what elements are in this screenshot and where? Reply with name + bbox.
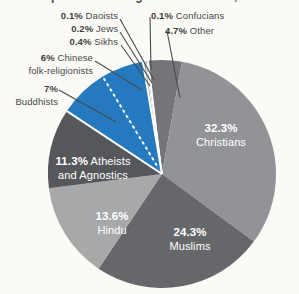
label-atheists-agnostics: 11.3% Atheists and Agnostics [38,155,148,182]
hindu-percent: 13.6% [95,210,128,222]
atheists-percent: 11.3% [56,155,88,167]
other-name: Other [190,25,214,36]
jews-name: Jews [96,23,118,34]
daoists-name: Daoists [86,10,118,21]
pie-chart-figure: Proportion of Religions Worldwide, 2020 … [0,0,299,294]
label-chinese-folk-religionists: 6% Chinese folk-religionists [0,52,93,77]
daoists-percent: 0.1% [61,10,83,21]
jews-percent: 0.2% [71,23,93,34]
christians-percent: 32.3% [204,122,237,134]
other-percent: 4.7% [165,25,187,36]
label-jews: 0.2% Jews [28,23,118,36]
label-hindu: 13.6% Hindu [62,210,162,237]
label-buddhists: 7% Buddhists [2,83,58,108]
buddhists-name: Buddhists [2,96,58,109]
label-other: 4.7% Other [165,25,255,38]
label-confucians: 0.1% Confucians [151,10,261,23]
sikhs-percent: 0.4% [69,36,91,47]
confucians-percent: 0.1% [151,10,173,21]
christians-name: Christians [171,136,271,150]
atheists-name: Atheists [91,155,131,167]
chinese-folk-percent: 6% [41,52,55,63]
muslims-name: Muslims [140,240,240,254]
muslims-percent: 24.3% [173,226,206,238]
label-sikhs: 0.4% Sikhs [28,36,118,49]
hindu-name: Hindu [62,224,162,238]
label-christians: 32.3% Christians [171,122,271,149]
label-daoists: 0.1% Daoists [28,10,118,23]
confucians-name: Confucians [176,10,225,21]
buddhists-percent: 7% [44,83,58,94]
chinese-folk-name: Chinese [57,52,93,63]
sikhs-name: Sikhs [94,36,118,47]
